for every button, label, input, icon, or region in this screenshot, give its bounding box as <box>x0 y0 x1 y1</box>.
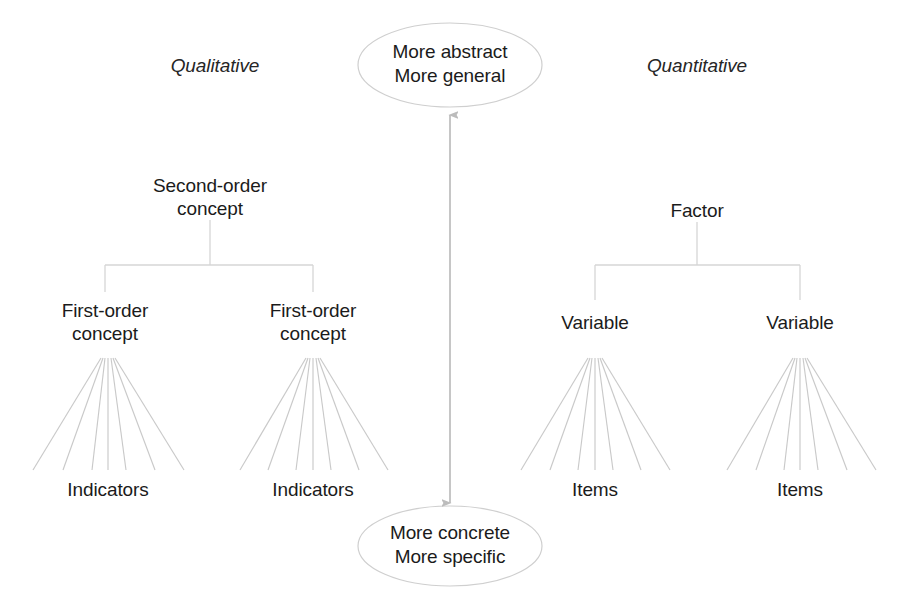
node-factor: Factor <box>670 199 723 222</box>
leaf-indicators-2: Indicators <box>272 478 353 501</box>
node-first-order-concept-1: First-order concept <box>62 299 149 345</box>
fan-items-1 <box>521 358 670 470</box>
bottom-pole-label: More concrete More specific <box>390 521 510 569</box>
node-variable-2: Variable <box>766 311 834 334</box>
fan-indicators-1 <box>33 358 184 470</box>
column-heading-qualitative: Qualitative <box>171 54 260 77</box>
node-first-order-concept-2: First-order concept <box>270 299 357 345</box>
diagram-canvas: Qualitative Quantitative More abstract M… <box>0 0 897 599</box>
column-heading-quantitative: Quantitative <box>647 54 747 77</box>
leaf-items-1: Items <box>572 478 618 501</box>
fan-items-2 <box>727 358 876 470</box>
fan-indicators-2 <box>240 358 388 470</box>
node-second-order-concept: Second-order concept <box>153 174 267 220</box>
node-variable-1: Variable <box>561 311 629 334</box>
leaf-items-2: Items <box>777 478 823 501</box>
leaf-indicators-1: Indicators <box>67 478 148 501</box>
top-pole-label: More abstract More general <box>393 40 508 88</box>
